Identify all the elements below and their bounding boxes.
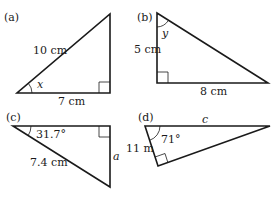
base-label-b: 8 cm — [200, 85, 228, 98]
panel-b: (b) y 5 cm 8 cm — [134, 11, 268, 98]
panel-d: (d) 71° 11 m c — [126, 111, 270, 166]
angle-label-d: 71° — [161, 133, 181, 146]
right-angle-marker-c — [99, 126, 110, 137]
triangle-b — [157, 13, 268, 83]
angle-label-b: y — [161, 27, 169, 40]
panel-c: (c) 31.7° 7.4 cm a — [6, 111, 120, 187]
short-side-label-d: 11 m — [126, 142, 154, 155]
base-label-a: 7 cm — [58, 95, 86, 108]
right-angle-marker-b — [157, 72, 168, 83]
hypotenuse-label-c: 7.4 cm — [30, 156, 68, 169]
triangles-figure: (a) 10 cm x 7 cm (b) y 5 cm 8 cm (c) 31.… — [0, 0, 279, 197]
right-angle-marker-a — [99, 82, 110, 93]
panel-d-label: (d) — [138, 111, 154, 124]
hypotenuse-label-a: 10 cm — [33, 44, 68, 57]
angle-arc-c — [28, 126, 31, 136]
hypotenuse-label-d: c — [202, 113, 208, 126]
angle-arc-d — [150, 126, 160, 140]
panel-a: (a) 10 cm x 7 cm — [4, 11, 110, 108]
panel-a-label: (a) — [4, 11, 19, 24]
panel-b-label: (b) — [137, 11, 153, 24]
vertical-side-label-b: 5 cm — [134, 43, 162, 56]
panel-c-label: (c) — [6, 111, 21, 124]
vertical-side-label-c: a — [113, 150, 120, 163]
angle-label-a: x — [37, 78, 44, 91]
angle-arc-a — [29, 84, 33, 94]
triangle-d — [145, 126, 270, 166]
angle-label-c: 31.7° — [36, 128, 66, 141]
